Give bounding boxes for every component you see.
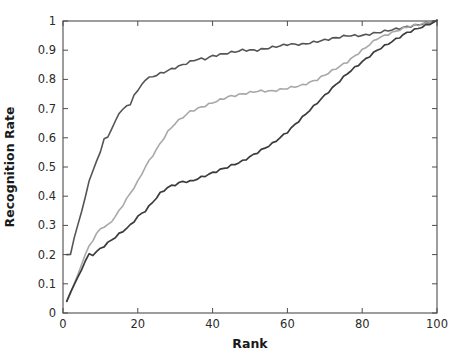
x-tick-label: 0	[59, 317, 66, 331]
x-axis-title: Rank	[232, 336, 268, 351]
y-tick-label: 0.2	[38, 248, 56, 262]
y-tick-label: 0.8	[38, 72, 56, 86]
y-tick-label: 0.3	[38, 218, 56, 232]
y-tick-label: 0.9	[38, 43, 56, 57]
x-tick-label: 20	[130, 317, 145, 331]
x-tick-label: 100	[426, 317, 448, 331]
y-tick-label: 0.4	[38, 189, 56, 203]
y-axis-title: Recognition Rate	[2, 107, 17, 228]
figure-container: 020406080100 00.10.20.30.40.50.60.70.80.…	[0, 0, 464, 358]
y-tick-label: 0	[49, 306, 56, 320]
chart-background	[0, 0, 464, 358]
x-tick-label: 40	[205, 317, 220, 331]
y-tick-label: 0.6	[38, 131, 56, 145]
cmc-chart: 020406080100 00.10.20.30.40.50.60.70.80.…	[0, 0, 464, 358]
y-tick-label: 0.1	[38, 277, 56, 291]
y-tick-label: 0.5	[38, 160, 56, 174]
y-tick-label: 0.7	[38, 102, 56, 116]
x-tick-label: 80	[355, 317, 370, 331]
y-tick-label: 1	[49, 14, 56, 28]
x-tick-label: 60	[280, 317, 295, 331]
